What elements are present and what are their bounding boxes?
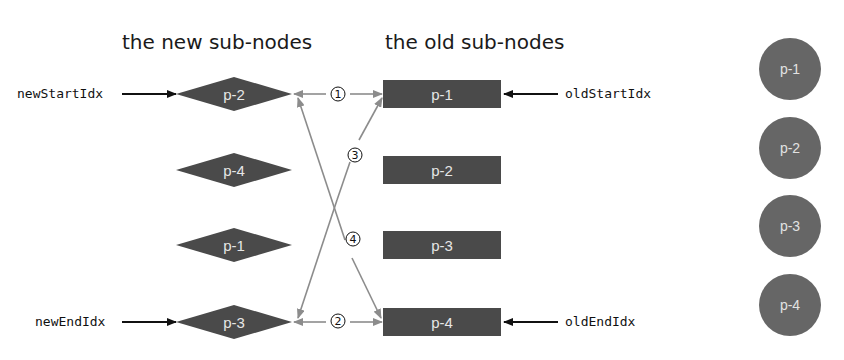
step-3-marker: 3 — [348, 148, 362, 162]
step-4-marker: 4 — [346, 232, 360, 246]
old-node-1: p-1 — [383, 80, 501, 108]
old-node-4: p-4 — [383, 308, 501, 336]
comparison-4-line — [298, 98, 345, 240]
new-node-3: p-1 — [176, 228, 292, 262]
new-node-1: p-2 — [176, 77, 292, 111]
new-node-2: p-4 — [176, 153, 292, 187]
new-node-label: p-4 — [176, 153, 292, 187]
new-node-label: p-3 — [176, 305, 292, 339]
new-end-idx-label: newEndIdx — [35, 314, 105, 329]
old-node-3: p-3 — [383, 231, 501, 259]
svg-text:4: 4 — [350, 233, 357, 246]
new-node-label: p-2 — [176, 77, 292, 111]
step-2-marker: 2 — [331, 314, 345, 328]
new-start-idx-label: newStartIdx — [17, 86, 103, 101]
dom-node-3: p-3 — [759, 195, 821, 257]
new-node-4: p-3 — [176, 305, 292, 339]
step-1-marker: 1 — [331, 87, 345, 101]
dom-node-1: p-1 — [759, 38, 821, 100]
old-start-idx-label: oldStartIdx — [565, 86, 651, 101]
comparison-3-line — [298, 200, 337, 318]
new-node-label: p-1 — [176, 228, 292, 262]
dom-node-2: p-2 — [759, 117, 821, 179]
old-end-idx-label: oldEndIdx — [565, 314, 635, 329]
svg-text:3: 3 — [352, 149, 359, 162]
svg-text:2: 2 — [335, 315, 342, 328]
old-node-2: p-2 — [383, 156, 501, 184]
dom-node-4: p-4 — [759, 274, 821, 336]
svg-text:1: 1 — [335, 88, 342, 101]
